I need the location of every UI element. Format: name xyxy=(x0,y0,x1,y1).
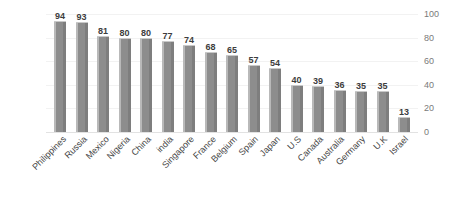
bar[interactable]: 35 xyxy=(355,91,367,132)
bar[interactable]: 80 xyxy=(140,38,152,132)
bar[interactable]: 68 xyxy=(205,52,217,132)
y-tick-label: 20 xyxy=(424,104,434,113)
y-tick-label: 80 xyxy=(424,33,434,42)
bar[interactable]: 74 xyxy=(183,45,195,132)
bar-value-label: 81 xyxy=(98,26,108,36)
x-axis: PhilippinesRussiaMexicoNigeriaChinaindia… xyxy=(46,132,418,204)
x-tick-label: U.S xyxy=(286,134,304,152)
bar[interactable]: 57 xyxy=(248,65,260,132)
bar-value-label: 80 xyxy=(119,28,129,38)
bar[interactable]: 36 xyxy=(334,90,346,132)
bar-value-label: 40 xyxy=(291,75,301,85)
x-tick-label-slot: Canada xyxy=(308,132,328,204)
x-tick-label-slot: Nigeria xyxy=(115,132,135,204)
bar[interactable]: 35 xyxy=(377,91,389,132)
x-tick-label-slot: Germany xyxy=(350,132,370,204)
bar-slot[interactable]: 39 xyxy=(308,14,328,132)
x-tick-label-slot: China xyxy=(136,132,156,204)
bar-slot[interactable]: 68 xyxy=(201,14,221,132)
x-tick-label-slot: Singapore xyxy=(179,132,199,204)
x-tick-label-slot: Philippines xyxy=(51,132,71,204)
x-tick-label-slot: France xyxy=(201,132,221,204)
y-tick-label: 60 xyxy=(424,57,434,66)
bar-value-label: 54 xyxy=(270,58,280,68)
x-tick-label-slot: U.K xyxy=(372,132,392,204)
bar-value-label: 13 xyxy=(399,107,409,117)
bar-value-label: 68 xyxy=(205,42,215,52)
bar-series: 9493818080777468655754403936353513 xyxy=(46,14,418,132)
plot-area: 9493818080777468655754403936353513 xyxy=(46,14,418,132)
bar-value-label: 35 xyxy=(377,81,387,91)
x-tick-label-slot: Israel xyxy=(393,132,413,204)
bar-slot[interactable]: 93 xyxy=(72,14,92,132)
bar-slot[interactable]: 65 xyxy=(222,14,242,132)
x-tick-label-slot: Japan xyxy=(265,132,285,204)
x-tick-label-slot: Spain xyxy=(243,132,263,204)
x-tick-label-slot: Belgium xyxy=(222,132,242,204)
y-axis: 100806040200 xyxy=(424,14,468,132)
bar[interactable]: 80 xyxy=(119,38,131,132)
bar-slot[interactable]: 57 xyxy=(244,14,264,132)
bar-value-label: 57 xyxy=(248,55,258,65)
bar-value-label: 94 xyxy=(55,11,65,21)
x-tick-label-slot: U.S xyxy=(286,132,306,204)
x-tick-label-slot: Russia xyxy=(72,132,92,204)
bar[interactable]: 40 xyxy=(291,85,303,132)
bar[interactable]: 81 xyxy=(97,36,109,132)
bar-slot[interactable]: 74 xyxy=(179,14,199,132)
bar-slot[interactable]: 36 xyxy=(330,14,350,132)
bar-value-label: 65 xyxy=(227,45,237,55)
bar[interactable]: 77 xyxy=(162,41,174,132)
bar[interactable]: 93 xyxy=(76,22,88,132)
bar-value-label: 36 xyxy=(334,80,344,90)
bar-slot[interactable]: 80 xyxy=(115,14,135,132)
bar-slot[interactable]: 77 xyxy=(158,14,178,132)
bar[interactable]: 13 xyxy=(398,117,410,132)
bar[interactable]: 65 xyxy=(226,55,238,132)
bar-slot[interactable]: 35 xyxy=(373,14,393,132)
bar-slot[interactable]: 13 xyxy=(394,14,414,132)
bar-slot[interactable]: 54 xyxy=(265,14,285,132)
bar-value-label: 39 xyxy=(313,76,323,86)
bar-slot[interactable]: 81 xyxy=(93,14,113,132)
bar-slot[interactable]: 40 xyxy=(287,14,307,132)
bar-slot[interactable]: 35 xyxy=(351,14,371,132)
bar[interactable]: 39 xyxy=(312,86,324,132)
bar-value-label: 93 xyxy=(76,12,86,22)
bar-chart: 9493818080777468655754403936353513 10080… xyxy=(0,0,475,204)
bar-slot[interactable]: 80 xyxy=(136,14,156,132)
x-tick-label-slot: Mexico xyxy=(94,132,114,204)
y-tick-label: 0 xyxy=(424,128,429,137)
y-tick-label: 100 xyxy=(424,10,439,19)
y-tick-label: 40 xyxy=(424,80,434,89)
bar-slot[interactable]: 94 xyxy=(50,14,70,132)
bar-value-label: 74 xyxy=(184,35,194,45)
bar-value-label: 80 xyxy=(141,28,151,38)
x-tick-label-slot: Australia xyxy=(329,132,349,204)
bar-value-label: 77 xyxy=(162,31,172,41)
bar[interactable]: 54 xyxy=(269,68,281,132)
bar-value-label: 35 xyxy=(356,81,366,91)
bar[interactable]: 94 xyxy=(54,21,66,132)
